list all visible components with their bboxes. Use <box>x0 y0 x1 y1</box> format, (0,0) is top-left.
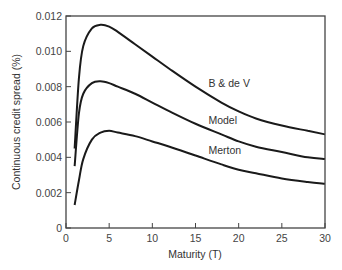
x-axis-ticks: 051015202530 <box>63 223 331 244</box>
x-tick-label: 30 <box>319 232 331 244</box>
x-tick-label: 25 <box>276 232 288 244</box>
series-label: Merton <box>208 144 241 156</box>
series-label: Model <box>208 114 237 126</box>
x-tick-label: 20 <box>233 232 245 244</box>
plot-frame <box>66 16 325 228</box>
series-line <box>75 81 325 166</box>
x-tick-label: 15 <box>190 232 202 244</box>
x-tick-label: 10 <box>146 232 158 244</box>
y-tick-label: 0.010 <box>36 45 62 57</box>
series-lines <box>75 25 325 205</box>
y-tick-label: 0.008 <box>36 81 62 93</box>
x-tick-label: 5 <box>106 232 112 244</box>
y-axis-title: Continuous credit spread (%) <box>10 54 22 190</box>
y-tick-label: 0 <box>56 222 62 234</box>
series-label: B & de V <box>208 77 249 89</box>
series-line <box>75 131 325 205</box>
chart: 00.0020.0040.0060.0080.0100.012 05101520… <box>0 0 342 270</box>
y-tick-label: 0.012 <box>36 10 62 22</box>
series-line <box>75 25 325 149</box>
y-tick-label: 0.002 <box>36 187 62 199</box>
x-tick-label: 0 <box>63 232 69 244</box>
y-tick-label: 0.004 <box>36 151 62 163</box>
y-tick-label: 0.006 <box>36 116 62 128</box>
x-axis-title: Maturity (T) <box>168 248 222 260</box>
